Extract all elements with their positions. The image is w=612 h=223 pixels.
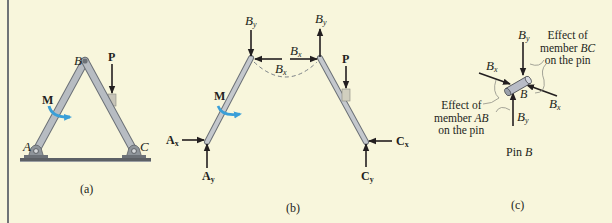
label-c-by-top: By — [518, 28, 530, 43]
label-b-by-left: By — [245, 14, 257, 29]
label-c-bx-right: Bx — [549, 97, 561, 112]
caption-b: (b) — [286, 202, 300, 214]
caption-a: (a) — [80, 183, 93, 195]
label-b-ax: Ax — [166, 134, 179, 148]
note-effect-bc: Effect of member BC on the pin — [540, 29, 595, 67]
member-bc — [85, 61, 134, 151]
label-a-load-p: P — [108, 51, 115, 63]
ground-line — [20, 158, 151, 161]
label-b-load-p: P — [342, 53, 349, 65]
label-c-by-bottom: By — [517, 110, 529, 125]
label-b-bx-right: Bx — [290, 44, 302, 59]
label-a-moment-m: M — [42, 94, 53, 106]
label-c-bx-left: Bx — [486, 59, 498, 74]
pin-b-title: Pin B — [506, 146, 532, 158]
label-a-point-a: A — [23, 140, 31, 153]
label-a-point-b: B — [74, 54, 82, 67]
label-b-cx: Cx — [396, 135, 409, 149]
caption-c: (c) — [511, 199, 524, 211]
label-b-by-right: By — [315, 12, 327, 27]
label-b-moment-m: M — [214, 90, 225, 102]
label-a-point-c: C — [140, 140, 149, 153]
note-effect-ab: Effect of member AB on the pin — [434, 99, 489, 137]
panel-a-frame — [20, 58, 151, 162]
label-b-cy: Cy — [361, 170, 374, 184]
pin-bx-left-arrow — [479, 73, 510, 84]
label-b-bx-left: Bx — [275, 62, 287, 77]
pin-b — [82, 58, 87, 63]
label-c-pin-b: B — [520, 88, 527, 100]
label-b-ay: Ay — [202, 170, 215, 184]
